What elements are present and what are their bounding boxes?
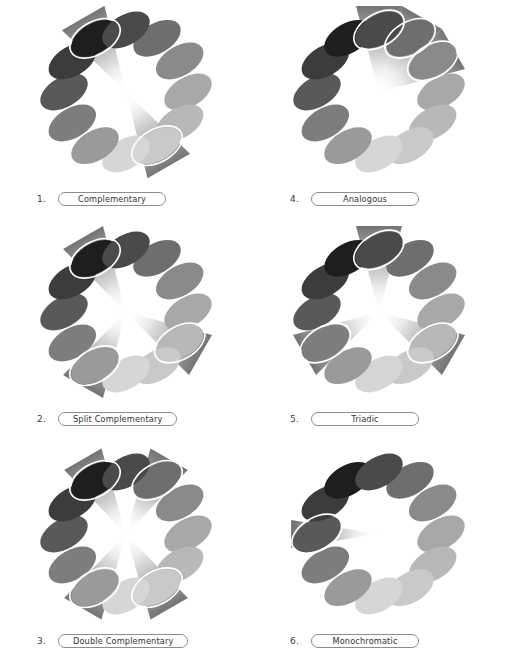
scheme-cell-monochromatic: 6.Monochromatic (253, 442, 506, 658)
scheme-name-pill[interactable]: Complementary (58, 192, 166, 206)
scheme-number: 5. (253, 414, 299, 424)
scheme-name-label: Analogous (343, 195, 387, 203)
scheme-number: 4. (253, 194, 299, 204)
scheme-name-label: Monochromatic (332, 637, 397, 645)
scheme-cell-analogous: 4.Analogous (253, 0, 506, 220)
scheme-label-row: 1.Complementary (0, 190, 253, 208)
scheme-grid: 1.Complementary4.Analogous2.Split Comple… (0, 0, 506, 658)
center-glow (349, 62, 409, 122)
scheme-label-row: 5.Triadic (253, 410, 506, 428)
scheme-name-label: Split Complementary (73, 415, 162, 423)
wheel-container (253, 442, 506, 632)
color-wheel (253, 220, 506, 410)
scheme-number: 1. (0, 194, 46, 204)
center-glow (349, 282, 409, 342)
color-wheel (253, 442, 506, 632)
scheme-cell-split-complementary: 2.Split Complementary (0, 220, 253, 442)
scheme-name-pill[interactable]: Double Complementary (58, 634, 188, 648)
color-wheel (0, 220, 253, 410)
center-glow (96, 62, 156, 122)
scheme-label-row: 6.Monochromatic (253, 632, 506, 650)
scheme-number: 3. (0, 636, 46, 646)
scheme-name-pill[interactable]: Triadic (311, 412, 419, 426)
scheme-cell-triadic: 5.Triadic (253, 220, 506, 442)
wheel-container (0, 220, 253, 410)
scheme-name-pill[interactable]: Split Complementary (58, 412, 177, 426)
color-wheel (0, 0, 253, 190)
wheel-container (0, 0, 253, 190)
center-glow (349, 504, 409, 564)
scheme-name-label: Triadic (351, 415, 378, 423)
scheme-cell-complementary: 1.Complementary (0, 0, 253, 220)
scheme-label-row: 3.Double Complementary (0, 632, 253, 650)
scheme-number: 6. (253, 636, 299, 646)
wheel-container (0, 442, 253, 632)
color-wheel (0, 442, 253, 632)
scheme-name-pill[interactable]: Monochromatic (311, 634, 419, 648)
scheme-name-label: Complementary (78, 195, 146, 203)
scheme-name-label: Double Complementary (73, 637, 173, 645)
color-wheel (253, 0, 506, 190)
wheel-container (253, 0, 506, 190)
scheme-name-pill[interactable]: Analogous (311, 192, 419, 206)
center-glow (96, 504, 156, 564)
scheme-label-row: 2.Split Complementary (0, 410, 253, 428)
scheme-number: 2. (0, 414, 46, 424)
center-glow (96, 282, 156, 342)
scheme-label-row: 4.Analogous (253, 190, 506, 208)
scheme-cell-double-complementary: 3.Double Complementary (0, 442, 253, 658)
wheel-container (253, 220, 506, 410)
